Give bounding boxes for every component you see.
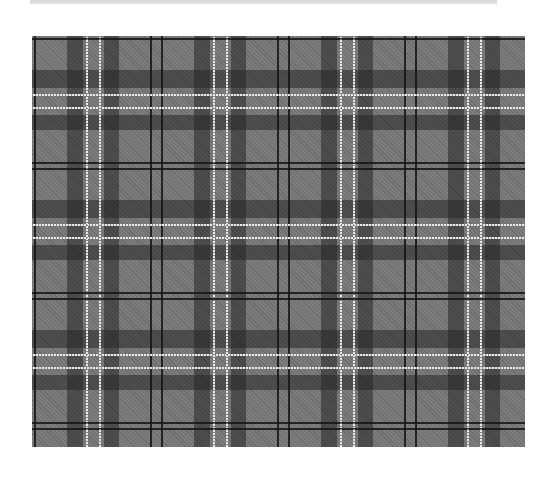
top-bar (30, 0, 497, 4)
horizontal-stripe-texture (32, 36, 525, 447)
tartan-pattern-image: Gray tartan plaid fabric pattern (32, 36, 525, 447)
